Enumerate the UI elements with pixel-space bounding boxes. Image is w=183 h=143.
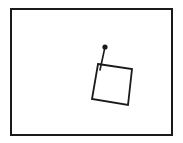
tilted-square: [92, 64, 132, 105]
line-drawing: [0, 0, 183, 143]
drawing-canvas: [0, 0, 183, 143]
pin-stem-line: [100, 47, 105, 70]
outer-frame: [11, 9, 172, 135]
pin-dot-icon: [102, 44, 107, 49]
